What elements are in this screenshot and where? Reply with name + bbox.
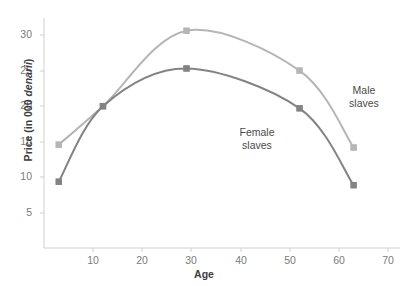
x-tick-label-70: 70 xyxy=(373,254,403,266)
data-point-marker xyxy=(297,68,303,74)
data-point-marker xyxy=(56,179,62,185)
chart-container: 30 25 20 15 10 5 10 20 30 40 50 60 70 Pr… xyxy=(0,0,408,286)
series-female-slaves xyxy=(56,66,356,188)
chart-plot-area xyxy=(0,0,408,286)
data-point-marker xyxy=(184,28,190,34)
y-axis-title-plain: Price (in 000 xyxy=(22,97,34,162)
series-label-male-slaves: Male slaves xyxy=(336,84,392,110)
series-male-slaves xyxy=(56,28,356,150)
y-tick-label-5: 5 xyxy=(6,206,32,218)
x-tick-label-40: 40 xyxy=(226,254,256,266)
x-tick-label-50: 50 xyxy=(275,254,305,266)
y-axis-title-tail: ) xyxy=(22,59,34,63)
data-series-layer xyxy=(56,28,356,188)
series-line xyxy=(59,68,354,185)
x-tick-label-30: 30 xyxy=(176,254,206,266)
data-point-marker xyxy=(297,106,303,112)
series-line xyxy=(59,30,354,148)
data-point-marker xyxy=(351,182,357,188)
x-tick-label-20: 20 xyxy=(127,254,157,266)
data-point-marker xyxy=(351,145,357,151)
series-label-female-slaves: Female slaves xyxy=(228,126,286,152)
x-axis-title: Age xyxy=(0,268,408,280)
data-point-marker xyxy=(56,142,62,148)
x-axis-ticks xyxy=(93,248,388,252)
data-point-marker xyxy=(184,66,190,72)
x-tick-label-60: 60 xyxy=(324,254,354,266)
y-axis-title: Price (in 000 denarii) xyxy=(22,35,34,185)
y-axis-title-italic: denarii xyxy=(22,62,34,96)
x-tick-label-10: 10 xyxy=(78,254,108,266)
y-axis-ticks xyxy=(40,35,44,213)
data-point-marker xyxy=(100,103,106,109)
